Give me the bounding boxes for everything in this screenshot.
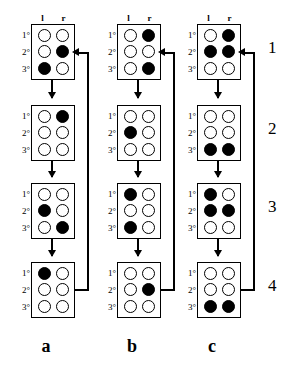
panel-label-a: a [6, 336, 86, 357]
row-label-1deg: 1° [9, 265, 30, 281]
row-label-2deg: 2° [95, 125, 116, 141]
empty-dot-icon [124, 300, 137, 313]
dot-row [121, 203, 157, 219]
feedback-line-top-c [244, 52, 254, 54]
row-label-3deg: 3° [9, 220, 30, 236]
empty-dot-icon [222, 283, 235, 296]
feedback-arrow-icon [158, 48, 165, 56]
dot-row [201, 186, 237, 202]
empty-dot-icon [56, 283, 69, 296]
filled-dot-icon [204, 300, 217, 313]
empty-dot-icon [204, 110, 217, 123]
empty-dot-icon [56, 267, 69, 280]
empty-dot-icon [124, 62, 137, 75]
row-label-2deg: 2° [175, 125, 196, 141]
empty-dot-icon [56, 204, 69, 217]
empty-dot-icon [142, 221, 155, 234]
row-label-3deg: 3° [95, 299, 116, 315]
filled-dot-icon [222, 204, 235, 217]
stage-number-2: 2 [268, 119, 288, 139]
row-labels-c-2: 1° 2° 3° [175, 105, 196, 161]
dot-row [35, 265, 71, 281]
column-header-left-a: l [32, 12, 53, 24]
empty-dot-icon [38, 300, 51, 313]
row-label-2deg: 2° [9, 203, 30, 219]
row-labels-b-1: 1° 2° 3° [95, 24, 116, 80]
down-arrow-icon [51, 161, 54, 177]
row-label-3deg: 3° [175, 61, 196, 77]
column-header-right-c: r [219, 12, 240, 24]
empty-dot-icon [222, 110, 235, 123]
filled-dot-icon [56, 45, 69, 58]
cell-box-c-2 [197, 105, 241, 161]
dot-row [121, 125, 157, 141]
row-label-1deg: 1° [9, 186, 30, 202]
feedback-arrow-icon [72, 48, 79, 56]
dot-row [201, 142, 237, 158]
row-label-2deg: 2° [9, 44, 30, 60]
row-label-2deg: 2° [175, 282, 196, 298]
down-arrow-icon [137, 80, 140, 98]
row-label-3deg: 3° [9, 299, 30, 315]
down-arrow-icon [137, 161, 140, 177]
empty-dot-icon [38, 45, 51, 58]
dot-row [201, 108, 237, 124]
row-label-1deg: 1° [95, 27, 116, 43]
feedback-arrow-icon [238, 48, 245, 56]
empty-dot-icon [38, 110, 51, 123]
empty-dot-icon [38, 283, 51, 296]
row-label-2deg: 2° [175, 44, 196, 60]
dot-row [201, 125, 237, 141]
dot-row [121, 27, 157, 43]
feedback-line-top-a [78, 52, 88, 54]
panel-label-b: b [92, 336, 172, 357]
empty-dot-icon [204, 221, 217, 234]
empty-dot-icon [142, 45, 155, 58]
row-label-1deg: 1° [95, 186, 116, 202]
stage-number-4: 4 [268, 276, 288, 296]
row-label-2deg: 2° [95, 203, 116, 219]
dot-row [35, 186, 71, 202]
empty-dot-icon [222, 126, 235, 139]
dot-row [35, 61, 71, 77]
empty-dot-icon [222, 221, 235, 234]
row-label-3deg: 3° [9, 142, 30, 158]
cell-box-a-4 [31, 262, 75, 318]
row-label-3deg: 3° [175, 220, 196, 236]
cell-state-sequence-diagram: l r 1° 2° 3° 1° 2° 3° 1° 2° 3° [0, 0, 294, 365]
row-label-3deg: 3° [175, 299, 196, 315]
row-label-1deg: 1° [175, 27, 196, 43]
row-label-3deg: 3° [95, 61, 116, 77]
column-headers-a: l r [32, 12, 74, 24]
row-labels-c-4: 1° 2° 3° [175, 262, 196, 318]
row-label-1deg: 1° [95, 108, 116, 124]
row-label-1deg: 1° [175, 108, 196, 124]
empty-dot-icon [142, 300, 155, 313]
row-labels-b-2: 1° 2° 3° [95, 105, 116, 161]
filled-dot-icon [204, 188, 217, 201]
stage-number-3: 3 [268, 197, 288, 217]
empty-dot-icon [124, 143, 137, 156]
empty-dot-icon [204, 126, 217, 139]
empty-dot-icon [142, 126, 155, 139]
empty-dot-icon [38, 29, 51, 42]
row-label-3deg: 3° [175, 142, 196, 158]
column-header-right-b: r [139, 12, 160, 24]
dot-row [201, 299, 237, 315]
dot-row [35, 220, 71, 236]
row-labels-b-3: 1° 2° 3° [95, 183, 116, 239]
cell-box-c-3 [197, 183, 241, 239]
empty-dot-icon [56, 188, 69, 201]
row-labels-b-4: 1° 2° 3° [95, 262, 116, 318]
empty-dot-icon [124, 110, 137, 123]
dot-row [201, 282, 237, 298]
empty-dot-icon [222, 188, 235, 201]
dot-row [201, 61, 237, 77]
empty-dot-icon [204, 62, 217, 75]
dot-row [121, 61, 157, 77]
filled-dot-icon [204, 45, 217, 58]
filled-dot-icon [142, 283, 155, 296]
row-label-1deg: 1° [175, 186, 196, 202]
filled-dot-icon [222, 29, 235, 42]
dot-row [35, 27, 71, 43]
